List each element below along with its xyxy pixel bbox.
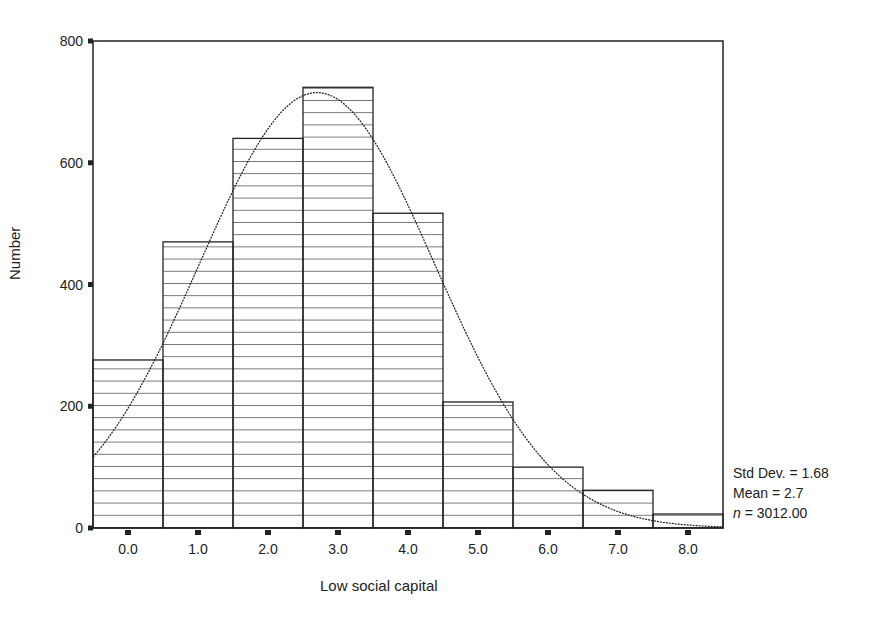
bars-group [93, 87, 723, 528]
x-tick-mark [195, 530, 201, 535]
x-tick-label: 0.0 [118, 541, 138, 557]
x-tick-mark [475, 530, 481, 535]
y-tick-label: 600 [60, 155, 84, 171]
x-tick-mark [265, 530, 271, 535]
y-tick-label: 800 [60, 33, 84, 49]
x-tick-mark [125, 530, 131, 535]
n-value: = 3012.00 [741, 505, 808, 521]
histogram-chart: 0200400600800 0.01.02.03.04.05.06.07.08.… [0, 0, 888, 624]
x-tick-label: 8.0 [678, 541, 698, 557]
std-dev-label: Std Dev. = 1.68 [733, 463, 829, 483]
x-tick-label: 7.0 [608, 541, 628, 557]
n-label: n = 3012.00 [733, 503, 829, 523]
x-tick-mark [335, 530, 341, 535]
histogram-bar [163, 242, 233, 528]
y-axis-label: Number [6, 227, 23, 280]
mean-label: Mean = 2.7 [733, 483, 829, 503]
summary-stats: Std Dev. = 1.68 Mean = 2.7 n = 3012.00 [733, 463, 829, 523]
y-tick-label: 400 [60, 277, 84, 293]
x-tick-mark [405, 530, 411, 535]
x-tick-label: 1.0 [188, 541, 208, 557]
y-axis-ticks: 0200400600800 [60, 33, 93, 536]
histogram-bar [443, 402, 513, 528]
x-tick-label: 6.0 [538, 541, 558, 557]
histogram-bar [303, 87, 373, 528]
x-tick-label: 2.0 [258, 541, 278, 557]
x-tick-label: 4.0 [398, 541, 418, 557]
histogram-bar [513, 467, 583, 528]
x-tick-label: 3.0 [328, 541, 348, 557]
y-tick-mark [88, 526, 93, 531]
histogram-bar [233, 138, 303, 528]
x-tick-mark [615, 530, 621, 535]
x-axis-ticks: 0.01.02.03.04.05.06.07.08.0 [118, 530, 698, 557]
x-tick-mark [545, 530, 551, 535]
x-axis-label: Low social capital [320, 577, 438, 594]
x-tick-mark [685, 530, 691, 535]
histogram-bar [583, 490, 653, 528]
y-tick-mark [88, 282, 93, 287]
y-tick-mark [88, 39, 93, 44]
y-tick-label: 200 [60, 398, 84, 414]
y-tick-mark [88, 160, 93, 165]
y-tick-label: 0 [75, 520, 83, 536]
y-tick-mark [88, 404, 93, 409]
x-tick-label: 5.0 [468, 541, 488, 557]
histogram-bar [373, 213, 443, 528]
n-symbol: n [733, 505, 741, 521]
